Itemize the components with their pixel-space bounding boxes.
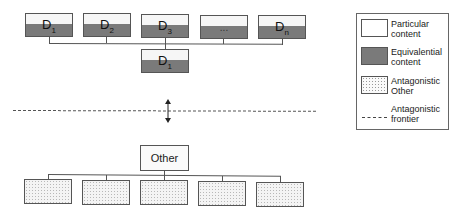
node-dn: Dn — [258, 15, 306, 39]
node-ellipsis: ... — [200, 15, 248, 39]
double-arrow-icon — [161, 98, 175, 124]
node-antagonistic-3 — [140, 180, 188, 205]
node-antagonistic-2 — [82, 180, 130, 205]
legend-item-antagonistic-other: Antagonistic Other — [361, 76, 440, 96]
equivalential-swatch — [361, 47, 388, 65]
node-antagonistic-4 — [198, 181, 246, 206]
antagonistic-other-swatch — [361, 76, 388, 94]
node-center-d1: D1 — [141, 49, 189, 73]
legend-item-antagonistic-frontier: Antagonistic frontier — [361, 104, 440, 124]
node-other: Other — [140, 145, 189, 171]
particular-swatch — [361, 19, 388, 37]
connector — [106, 37, 107, 43]
node-d2: D2 — [83, 13, 131, 37]
legend-item-equivalential: Equivalential content — [361, 47, 442, 67]
node-d3: D3 — [141, 14, 189, 38]
legend-item-particular: Particular content — [361, 19, 429, 39]
node-antagonistic-1 — [24, 179, 72, 204]
node-d1: D1 — [25, 13, 73, 37]
legend: Particular content Equivalential content… — [356, 13, 449, 130]
dashed-line-swatch — [361, 104, 388, 122]
node-antagonistic-5 — [256, 182, 304, 207]
